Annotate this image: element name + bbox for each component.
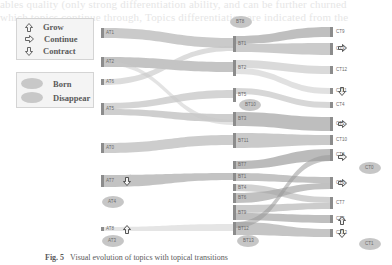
legend-item-disappear: Disappear (21, 92, 90, 103)
topic-node-label: AT5 (106, 106, 114, 111)
topic-node-bar-ct11 (330, 88, 333, 94)
topic-node-bar-bt9 (233, 205, 236, 220)
topic-node-label: BT12 (238, 226, 249, 231)
topic-node-label: AT8 (106, 226, 114, 231)
event-label: BT10 (245, 102, 256, 107)
topic-node-bar-bt7 (233, 161, 236, 169)
topic-node-bar-ct1 (330, 117, 333, 131)
topic-node-bar-bt11 (233, 133, 236, 148)
topic-flow-band (236, 173, 330, 183)
topic-node-bar-ct12 (330, 66, 333, 74)
topic-node-bar-bt1 (233, 173, 236, 181)
topic-node-bar-ct4 (330, 102, 333, 108)
topic-node-label: AT2 (106, 59, 114, 64)
topic-node-bar-ct6 (330, 177, 333, 189)
topic-node-label: CT8 (336, 152, 345, 157)
topic-node-label: BT9 (238, 210, 246, 215)
topic-node-bar-at0 (101, 143, 104, 153)
topic-node-bar-bt1 (233, 36, 236, 52)
topic-flow-band (236, 112, 330, 131)
topic-flow-band (236, 133, 330, 148)
topic-node-bar-ct9 (330, 27, 333, 37)
topic-node-label: AT7 (106, 178, 114, 183)
up-arrow-icon (124, 226, 131, 234)
topic-node-bar-at8 (101, 227, 104, 231)
topic-node-bar-at6 (101, 79, 104, 85)
topic-node-bar-at2 (101, 57, 104, 67)
topic-node-label: CT12 (336, 67, 347, 72)
topic-node-label: CT11 (336, 88, 347, 93)
topic-node-bar-ct7 (330, 197, 333, 209)
legend-events: Born Disappear (16, 72, 94, 108)
legend-item-contract: Contract (25, 46, 76, 56)
topic-node-bar-at5 (101, 103, 104, 115)
topic-flow-band (236, 43, 330, 55)
born-ellipse-icon (21, 78, 43, 89)
topic-node-bar-ct5 (330, 215, 333, 223)
topic-flow-band (104, 135, 233, 153)
topic-node-bar-at1 (101, 28, 104, 38)
figure-caption: Fig. 5Visual evolution of topics with to… (45, 253, 228, 262)
topic-node-label: BT6 (238, 195, 246, 200)
topic-node-label: CT6 (336, 180, 345, 185)
topic-node-label: CT3 (336, 46, 345, 51)
topic-node-bar-bt4 (233, 184, 236, 191)
topic-node-label: CT4 (336, 102, 345, 107)
topic-node-label: CT7 (336, 200, 345, 205)
topic-node-label: CT5 (336, 216, 345, 221)
topic-node-label: BT1 (238, 41, 246, 46)
topic-flow-band (104, 173, 233, 187)
topic-node-bar-at7 (101, 175, 104, 187)
topic-node-bar-ct10 (330, 135, 333, 145)
topic-node-label: CT13 (336, 230, 347, 235)
event-label: BT13 (243, 238, 254, 243)
event-label: AT3 (108, 238, 116, 243)
topic-node-label: BT5 (238, 92, 246, 97)
figure-number: Fig. 5 (45, 253, 64, 262)
right-arrow-icon (25, 35, 34, 43)
topic-node-label: BT2 (238, 65, 246, 70)
topic-node-label: BT11 (238, 138, 248, 143)
topic-node-bar-ct8 (330, 149, 333, 161)
disappear-ellipse-icon (21, 92, 43, 103)
topic-flow-band (236, 27, 330, 44)
topic-node-bar-bt6 (233, 193, 236, 203)
topic-node-bar-ct13 (330, 229, 333, 237)
event-label: CT1 (365, 241, 374, 246)
topic-node-label: BT4 (238, 185, 246, 190)
topic-node-label: AT0 (106, 145, 114, 150)
legend-label-grow: Grow (43, 22, 64, 32)
legend-label-disappear: Disappear (53, 93, 90, 103)
topic-node-label: CT9 (336, 29, 345, 34)
up-arrow-icon (25, 23, 33, 32)
topic-node-bar-bt5 (233, 88, 236, 102)
topic-node-label: BT1 (238, 174, 246, 179)
legend-item-continue: Continue (25, 34, 78, 44)
topic-node-label: CT10 (336, 137, 347, 142)
topic-node-label: BT7 (238, 162, 246, 167)
legend-label-contract: Contract (43, 46, 76, 56)
topic-node-label: AT6 (106, 79, 114, 84)
down-arrow-icon (25, 47, 33, 56)
topic-node-bar-bt2 (233, 60, 236, 76)
topic-node-bar-bt12 (233, 222, 236, 235)
topic-node-bar-ct3 (330, 43, 333, 55)
caption-text: Visual evolution of topics with topical … (70, 253, 228, 262)
legend-label-born: Born (53, 79, 71, 89)
topic-node-label: AT1 (106, 30, 114, 35)
event-label: CT0 (365, 165, 374, 170)
topic-node-label: BT3 (238, 116, 246, 121)
topic-node-label: CT1 (336, 121, 345, 126)
event-label: AT4 (108, 199, 116, 204)
topic-node-bar-bt3 (233, 112, 236, 126)
topic-flow-band (104, 28, 233, 48)
legend-transitions: Grow Continue Contract (16, 18, 94, 60)
event-label: BT8 (236, 19, 244, 24)
legend-item-born: Born (21, 78, 71, 89)
legend-item-grow: Grow (25, 22, 64, 32)
topic-flow-band (236, 203, 330, 213)
legend-label-continue: Continue (44, 34, 78, 44)
